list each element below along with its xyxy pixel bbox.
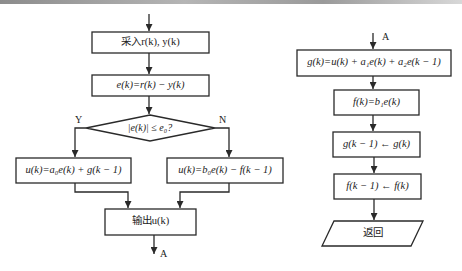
- branch-no-label: u(k)=b₀e(k) − f(k − 1): [167, 165, 283, 176]
- shift-g-label: g(k − 1) ← g(k): [333, 139, 420, 150]
- no-label: N: [219, 114, 226, 125]
- output-label: 输出u(k): [105, 216, 196, 227]
- branch-yes-label: u(k)=a₀e(k) + g(k − 1): [16, 165, 131, 176]
- update-f-label: f(k)=b₁e(k): [334, 97, 419, 108]
- input-label: 采入r(k), y(k): [92, 37, 209, 48]
- decision-label: |e(k)| ≤ e₀?: [100, 123, 200, 133]
- yes-label: Y: [75, 114, 82, 125]
- connector-a-in: A: [382, 31, 389, 42]
- error-label: e(k)=r(k) − y(k): [92, 80, 209, 91]
- shift-f-label: f(k − 1) ← f(k): [334, 181, 421, 192]
- connector-a-out: A: [160, 248, 167, 259]
- return-label: 返回: [322, 228, 423, 239]
- update-g-label: g(k)=u(k) + a₁e(k) + a₂e(k − 1): [297, 57, 451, 68]
